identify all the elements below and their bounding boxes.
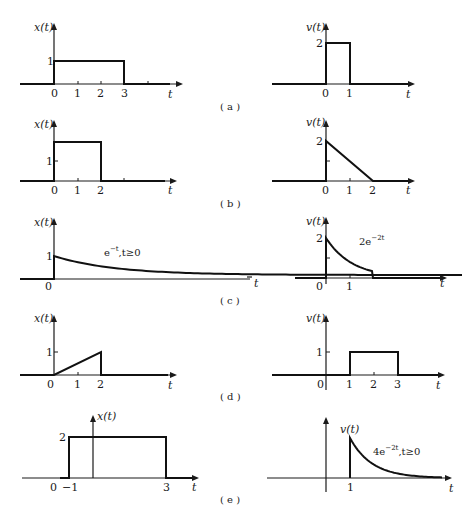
x-tick-label: 3 — [394, 378, 401, 391]
panel-e-right: v(t) t 1 4e−2t,t≥0 — [267, 417, 454, 495]
x-label: t — [436, 379, 441, 392]
y-label: v(t) — [306, 21, 325, 34]
caption-e: ( e ) — [220, 494, 240, 505]
curve-annotation: e−t,t≥0 — [104, 245, 141, 258]
t-axis-arrow-icon — [176, 81, 183, 87]
y-label: v(t) — [306, 215, 325, 228]
x-tick-label: 0 — [316, 280, 323, 293]
x-label: t — [192, 481, 197, 494]
y-tick-label: 1 — [47, 55, 54, 68]
signal-curve — [272, 141, 408, 181]
x-tick-label: 0 — [47, 378, 54, 391]
panel-e-left: x(t) t 2 0 −1 3 — [22, 410, 199, 494]
y-label: v(t) — [306, 312, 325, 325]
x-label: t — [406, 184, 411, 197]
x-label: t — [449, 482, 454, 495]
x-label: t — [406, 88, 411, 101]
y-label: x(t) — [34, 216, 53, 229]
y-label: v(t) — [340, 423, 359, 436]
signal-curve — [20, 142, 165, 181]
y-tick-label: 1 — [316, 346, 323, 359]
x-tick-label: 3 — [121, 87, 128, 100]
panel-b-left: x(t) t 1 0 1 2 — [20, 118, 177, 197]
caption-a: ( a ) — [220, 101, 240, 112]
signal-curve — [20, 256, 462, 279]
caption-c: ( c ) — [220, 295, 240, 306]
x-tick-label: 2 — [97, 378, 104, 391]
panel-d-right: v(t) t 1 0 1 2 3 — [272, 312, 445, 392]
x-label: t — [254, 277, 259, 290]
panel-c-left: x(t) 1 0 e−t,t≥0 — [20, 216, 462, 293]
signal-figure: x(t) t 1 0 1 2 3 v(t) t 2 0 1 ( a ) x(t)… — [0, 0, 462, 518]
x-tick-label: 2 — [369, 184, 376, 197]
signal-curve — [20, 352, 168, 375]
caption-d: ( d ) — [220, 391, 241, 402]
panel-a-right: v(t) t 2 0 1 — [272, 21, 415, 101]
y-tick-label: 2 — [316, 37, 323, 50]
x-tick-label: 1 — [347, 481, 354, 494]
curve-annotation: 4e−2t,t≥0 — [373, 444, 420, 457]
x-tick-label: 0 — [322, 184, 329, 197]
signal-curve — [272, 352, 438, 375]
x-tick-label: −1 — [62, 481, 78, 494]
t-axis-arrow-icon — [170, 372, 177, 378]
caption-b: ( b ) — [220, 198, 241, 209]
x-tick-label: 0 — [322, 87, 329, 100]
t-axis-arrow-icon — [438, 372, 445, 378]
y-label: x(t) — [97, 410, 116, 423]
x-tick-label: 0 — [51, 184, 58, 197]
x-tick-label: 2 — [370, 378, 377, 391]
x-tick-label: 0 — [51, 87, 58, 100]
x-tick-label: 1 — [346, 184, 353, 197]
x-tick-label: 1 — [74, 87, 81, 100]
x-tick-label: 0 — [50, 481, 57, 494]
y-label: x(t) — [34, 118, 53, 131]
curve-annotation: 2e−2t — [359, 234, 385, 247]
t-axis-arrow-icon — [445, 475, 452, 481]
panel-a-left: x(t) t 1 0 1 2 3 — [20, 21, 183, 101]
x-label: t — [440, 277, 445, 290]
x-label: t — [168, 88, 173, 101]
x-tick-label: 2 — [97, 87, 104, 100]
y-label: x(t) — [34, 21, 53, 34]
y-tick-label: 1 — [46, 155, 53, 168]
signal-curve — [60, 437, 192, 478]
x-tick-label: 3 — [163, 481, 170, 494]
panel-d-left: x(t) t 1 0 1 2 — [20, 312, 177, 392]
y-label: v(t) — [306, 116, 325, 129]
y-tick-label: 1 — [46, 250, 53, 263]
x-tick-label: 1 — [346, 378, 353, 391]
x-tick-label: 1 — [346, 280, 353, 293]
x-tick-label: 0 — [45, 280, 52, 293]
panel-c-right: v(t) t t 2 0 1 2e−2t — [247, 215, 447, 293]
y-axis-arrow-icon — [323, 417, 329, 424]
y-tick-label: 2 — [59, 431, 66, 444]
t-axis-arrow-icon — [408, 81, 415, 87]
y-tick-label: 2 — [316, 135, 323, 148]
x-tick-label: 2 — [97, 184, 104, 197]
x-tick-label: 0 — [317, 378, 324, 391]
x-tick-label: 1 — [346, 87, 353, 100]
signal-curve — [272, 43, 408, 84]
x-tick-label: 1 — [74, 184, 81, 197]
y-tick-label: 2 — [316, 232, 323, 245]
x-label: t — [168, 379, 173, 392]
x-tick-label: 1 — [74, 378, 81, 391]
y-axis-arrow-icon — [90, 415, 96, 422]
panel-b-right: v(t) t 2 0 1 2 — [272, 116, 415, 197]
x-label: t — [168, 184, 173, 197]
signal-curve — [20, 61, 170, 84]
y-label: x(t) — [34, 312, 53, 325]
y-tick-label: 1 — [46, 346, 53, 359]
